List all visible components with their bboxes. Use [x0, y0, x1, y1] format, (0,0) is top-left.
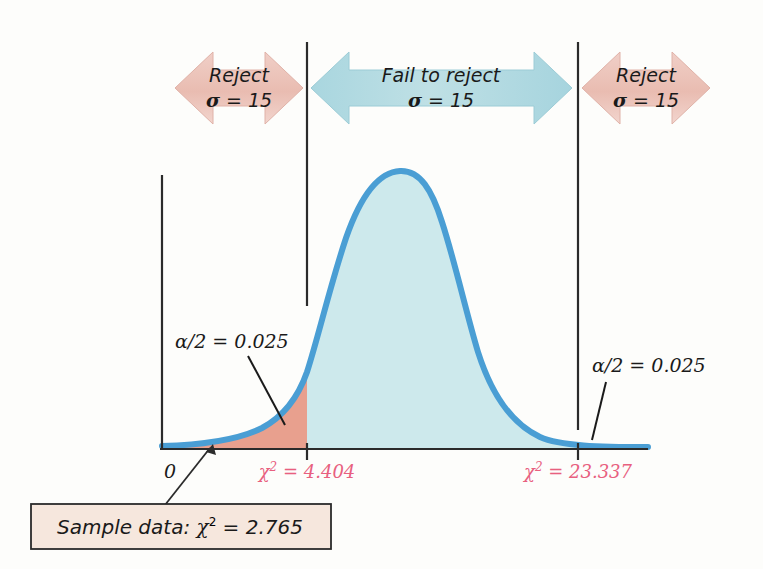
- alpha-left-leader-line: [248, 356, 285, 425]
- region-fail-to-reject-fill: [162, 171, 648, 448]
- figure-canvas: Reject σ = 15 Fail to reject σ = 15 Reje…: [0, 0, 763, 569]
- banner-reject-right: Reject σ = 15: [582, 52, 710, 124]
- callout-text: Sample data: χ2 = 2.765: [57, 515, 303, 539]
- banner-right-line1: Reject: [616, 64, 677, 86]
- alpha-right-label: α/2 = 0.025: [592, 354, 706, 376]
- banner-left-line2: σ = 15: [206, 89, 272, 111]
- sample-data-callout: Sample data: χ2 = 2.765: [31, 444, 331, 549]
- alpha-right-leader-line: [592, 382, 606, 440]
- banner-center-line2: σ = 15: [408, 89, 474, 111]
- critical-value-left-label: χ2 = 4.404: [257, 460, 356, 482]
- critical-value-right-label: χ2 = 23.337: [522, 460, 633, 482]
- chi-square-test-diagram: Reject σ = 15 Fail to reject σ = 15 Reje…: [0, 0, 763, 569]
- banner-right-line2: σ = 15: [613, 89, 679, 111]
- banner-left-line1: Reject: [209, 64, 270, 86]
- banner-center-line1: Fail to reject: [382, 64, 502, 86]
- banner-reject-left: Reject σ = 15: [175, 52, 303, 124]
- alpha-left-label: α/2 = 0.025: [175, 330, 289, 352]
- banner-fail-to-reject: Fail to reject σ = 15: [311, 52, 572, 124]
- x-axis-origin-label: 0: [164, 460, 176, 482]
